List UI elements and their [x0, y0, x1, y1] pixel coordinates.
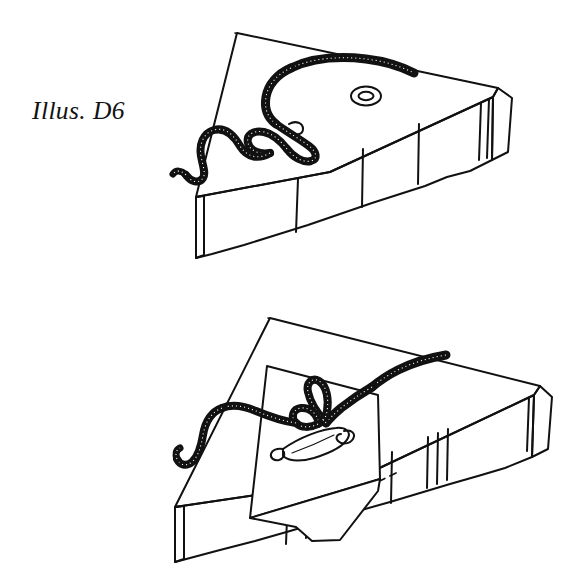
figure-panel-d6: Illus. D6 — [0, 0, 580, 292]
illustration-d7-artwork — [0, 291, 580, 583]
mattress-right-end-cap-d6 — [492, 88, 512, 160]
mattress-left-end-d7 — [175, 506, 184, 562]
figure-panel-d7: Illus. D7 — [0, 291, 580, 583]
illustration-page: Illus. D6 — [0, 0, 580, 583]
grommet-icon-d6 — [351, 87, 381, 106]
illustration-d6-artwork — [0, 0, 580, 292]
mattress-right-end-cap-d7 — [532, 386, 552, 457]
mattress-left-end-d6 — [196, 196, 204, 258]
